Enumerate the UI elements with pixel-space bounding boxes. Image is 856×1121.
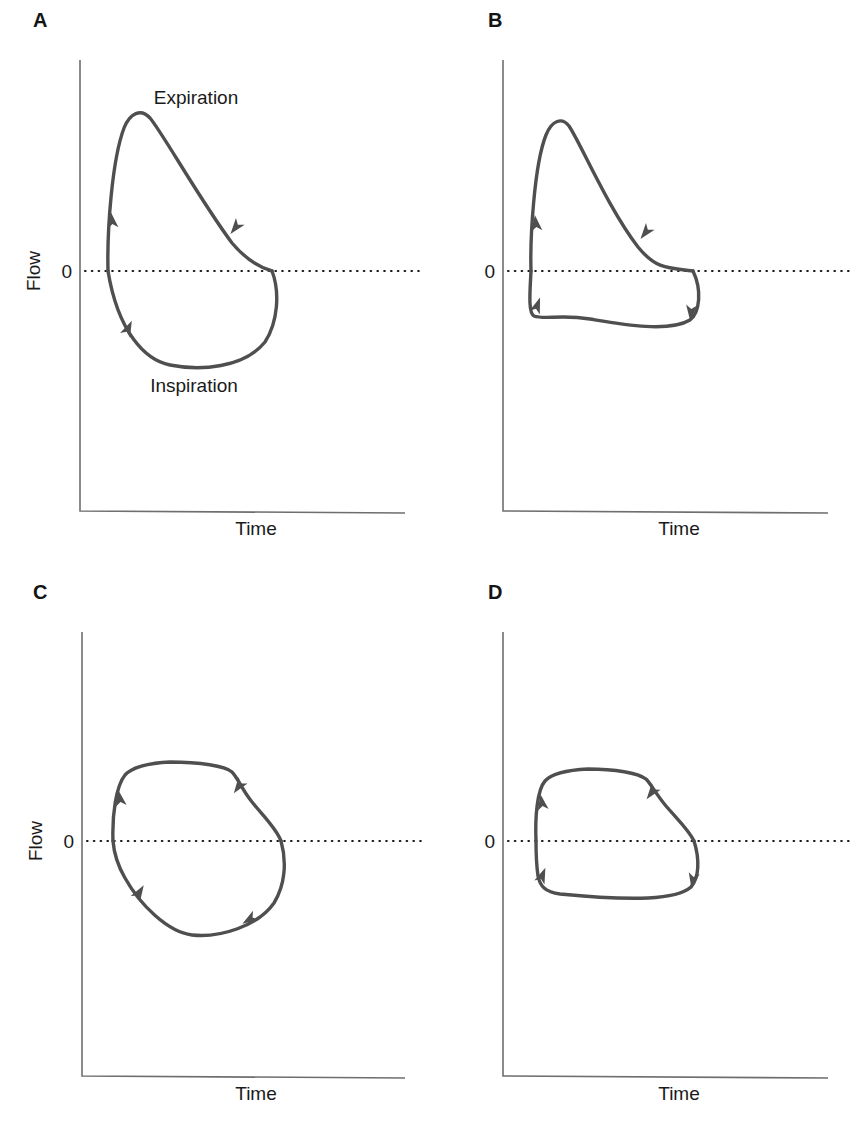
zero-label-b: 0 — [484, 261, 495, 282]
axis-lines-a — [80, 60, 405, 513]
figure-container: A 0 Flow Time Expiration Inspiration — [0, 0, 856, 1121]
panel-c-plot: 0 Flow Time — [0, 560, 428, 1121]
inspiration-curve-b — [530, 271, 699, 327]
zero-label-a: 0 — [61, 261, 72, 282]
inspiration-curve-a — [108, 271, 277, 368]
inspiration-label-a: Inspiration — [150, 375, 238, 396]
y-axis-label-a: Flow — [23, 251, 44, 291]
y-axis-label-c: Flow — [25, 821, 46, 861]
axis-lines-d — [503, 632, 828, 1078]
inspiration-curve-d — [536, 841, 698, 898]
x-axis-label-a: Time — [235, 518, 277, 539]
panel-b: B 0 Time — [428, 0, 856, 560]
expiration-curve-a — [108, 113, 272, 271]
expiration-curve-c — [113, 762, 281, 841]
axis-lines-b — [503, 60, 828, 513]
panel-b-plot: 0 Time — [428, 0, 856, 561]
x-axis-label-c: Time — [235, 1083, 277, 1104]
x-axis-label-b: Time — [658, 518, 700, 539]
expiration-curve-b — [531, 121, 693, 271]
axis-lines-c — [82, 632, 405, 1078]
panel-d: D 0 Time — [428, 560, 856, 1120]
expiration-curve-d — [536, 769, 694, 841]
panel-c: C 0 Flow Time — [0, 560, 428, 1120]
inspiration-curve-c — [113, 841, 284, 935]
expiration-label-a: Expiration — [154, 87, 239, 108]
zero-label-c: 0 — [63, 831, 74, 852]
direction-arrow-icon — [636, 223, 655, 242]
direction-arrow-icon — [226, 218, 245, 237]
zero-label-d: 0 — [484, 831, 495, 852]
x-axis-label-d: Time — [658, 1083, 700, 1104]
panel-a: A 0 Flow Time Expiration Inspiration — [0, 0, 428, 560]
panel-d-plot: 0 Time — [428, 560, 856, 1121]
panel-a-plot: 0 Flow Time Expiration Inspiration — [0, 0, 428, 561]
